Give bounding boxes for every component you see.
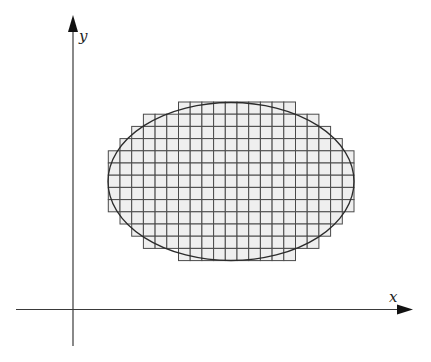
grid-cell bbox=[155, 126, 167, 138]
grid-cell bbox=[167, 200, 179, 212]
y-axis-label: y bbox=[78, 27, 88, 45]
grid-cell bbox=[307, 139, 319, 151]
grid-cell bbox=[225, 212, 237, 224]
grid-cell bbox=[190, 248, 202, 260]
grid-cell bbox=[190, 175, 202, 187]
grid-cell bbox=[284, 236, 296, 248]
grid-cell bbox=[272, 175, 284, 187]
grid-cell bbox=[179, 187, 191, 199]
grid-cell bbox=[214, 139, 226, 151]
grid-cell bbox=[272, 126, 284, 138]
grid-cell bbox=[132, 200, 144, 212]
grid-cell bbox=[296, 187, 308, 199]
grid-cell bbox=[179, 163, 191, 175]
grid-cell bbox=[260, 200, 272, 212]
grid-cell bbox=[214, 102, 226, 114]
grid-cell bbox=[202, 139, 214, 151]
grid-cell bbox=[237, 151, 249, 163]
grid-cell bbox=[155, 187, 167, 199]
grid-cell bbox=[190, 212, 202, 224]
grid-cell bbox=[296, 163, 308, 175]
grid-cell bbox=[108, 175, 120, 187]
grid-cell bbox=[179, 114, 191, 126]
grid-cell bbox=[225, 163, 237, 175]
grid-cell bbox=[179, 139, 191, 151]
grid-cell bbox=[319, 151, 331, 163]
y-axis-arrow-icon bbox=[68, 15, 78, 32]
grid-cell bbox=[155, 151, 167, 163]
grid-cell bbox=[190, 163, 202, 175]
grid-cell bbox=[225, 248, 237, 260]
grid-cell bbox=[202, 151, 214, 163]
grid-cell bbox=[237, 248, 249, 260]
grid-cell bbox=[307, 126, 319, 138]
grid-cell bbox=[307, 212, 319, 224]
grid-cell bbox=[307, 151, 319, 163]
grid-cell bbox=[202, 163, 214, 175]
grid-cell bbox=[167, 224, 179, 236]
grid-cell bbox=[272, 200, 284, 212]
grid-cell bbox=[237, 114, 249, 126]
grid-cell bbox=[249, 212, 261, 224]
grid-cell bbox=[167, 187, 179, 199]
grid-cell bbox=[167, 212, 179, 224]
grid-cell bbox=[120, 187, 132, 199]
grid-cell bbox=[260, 102, 272, 114]
grid-cell bbox=[272, 139, 284, 151]
grid-cell bbox=[225, 102, 237, 114]
grid-cell bbox=[202, 200, 214, 212]
grid-cell bbox=[260, 187, 272, 199]
grid-cell bbox=[319, 163, 331, 175]
grid-cell bbox=[120, 163, 132, 175]
grid-cell bbox=[190, 224, 202, 236]
grid-cell bbox=[225, 187, 237, 199]
grid-cell bbox=[284, 151, 296, 163]
grid-cell bbox=[249, 151, 261, 163]
grid-cell bbox=[179, 200, 191, 212]
grid-cell bbox=[167, 175, 179, 187]
grid-cell bbox=[202, 236, 214, 248]
grid-cell bbox=[179, 236, 191, 248]
grid-cell bbox=[225, 151, 237, 163]
grid-cell bbox=[284, 163, 296, 175]
grid-cell bbox=[167, 236, 179, 248]
grid-cell bbox=[272, 151, 284, 163]
grid-cell bbox=[331, 175, 343, 187]
grid-cell bbox=[214, 224, 226, 236]
grid-cell bbox=[260, 212, 272, 224]
grid-cell bbox=[249, 114, 261, 126]
grid-cell bbox=[120, 151, 132, 163]
grid-cell bbox=[249, 224, 261, 236]
grid-cell bbox=[179, 212, 191, 224]
grid-cell bbox=[132, 151, 144, 163]
grid-cell bbox=[260, 139, 272, 151]
grid-cell bbox=[237, 126, 249, 138]
grid-cell bbox=[260, 175, 272, 187]
grid-cell bbox=[331, 163, 343, 175]
grid-cell bbox=[272, 114, 284, 126]
grid-cell bbox=[143, 200, 155, 212]
grid-cell bbox=[307, 200, 319, 212]
grid-cell bbox=[155, 212, 167, 224]
grid-cell bbox=[120, 175, 132, 187]
grid-cell bbox=[214, 212, 226, 224]
grid-cell bbox=[202, 224, 214, 236]
grid-cell bbox=[284, 224, 296, 236]
grid-cell bbox=[202, 126, 214, 138]
grid-cell bbox=[155, 139, 167, 151]
grid-cell bbox=[296, 224, 308, 236]
grid-cell bbox=[284, 126, 296, 138]
grid-cell bbox=[214, 114, 226, 126]
grid-cell bbox=[202, 175, 214, 187]
grid-cell bbox=[319, 175, 331, 187]
grid-cell bbox=[237, 200, 249, 212]
grid-cell bbox=[190, 236, 202, 248]
grid-cell bbox=[214, 163, 226, 175]
grid-cell bbox=[202, 187, 214, 199]
grid-cell bbox=[237, 187, 249, 199]
grid-cell bbox=[307, 187, 319, 199]
grid-cell bbox=[225, 224, 237, 236]
grid-cell bbox=[284, 212, 296, 224]
grid-cell bbox=[132, 126, 144, 138]
grid-cell bbox=[132, 163, 144, 175]
